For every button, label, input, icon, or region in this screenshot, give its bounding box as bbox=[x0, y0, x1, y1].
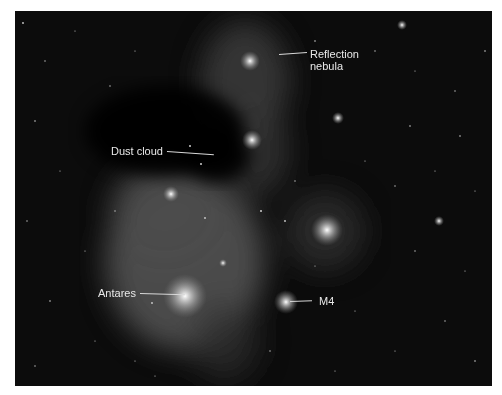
nebula-field-graphic bbox=[15, 11, 492, 386]
m4-label: M4 bbox=[319, 295, 334, 307]
astronomy-photo: Reflection nebula Dust cloud Antares M4 bbox=[15, 11, 492, 386]
dust-cloud-label: Dust cloud bbox=[111, 145, 163, 157]
reflection-nebula-label: Reflection nebula bbox=[310, 48, 359, 72]
reflection-nebula-label-line1: Reflection bbox=[310, 48, 359, 60]
reflection-nebula-label-line2: nebula bbox=[310, 60, 359, 72]
antares-label: Antares bbox=[98, 287, 136, 299]
